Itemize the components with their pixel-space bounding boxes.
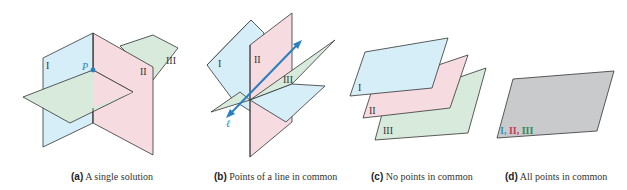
label-line-l: ℓ <box>226 118 230 129</box>
label-point-P: P <box>81 61 88 72</box>
caption-tag-a: (a) <box>71 171 83 182</box>
label-plane-I-c: I <box>358 82 361 93</box>
label-plane-III-a: III <box>166 55 176 66</box>
figure-b-diagram <box>207 13 335 157</box>
label-plane-I-a: I <box>46 60 49 71</box>
caption-tag-d: (d) <box>505 171 518 182</box>
label-plane-II-c: II <box>369 105 376 116</box>
label-plane-III-b: III <box>283 74 293 85</box>
caption-tag-b: (b) <box>214 171 227 182</box>
caption-text-b: Points of a line in common <box>229 171 337 182</box>
caption-text-d: All points in common <box>520 171 608 182</box>
caption-c: (c) No points in common <box>371 171 473 182</box>
caption-d: (d) All points in common <box>505 171 607 182</box>
label-plane-I-b: I <box>218 58 221 69</box>
label-plane-II-b: II <box>254 54 261 65</box>
figure-a-diagram <box>23 33 178 155</box>
label-plane-III-d: III <box>522 125 534 136</box>
label-plane-I-d: I, <box>500 125 507 136</box>
label-combined: I, II, III <box>500 125 533 136</box>
label-plane-II-d: II, <box>509 125 520 136</box>
figure-canvas: I II III P I II III ℓ I II III I, II, II… <box>0 0 627 190</box>
caption-b: (b) Points of a line in common <box>214 171 337 182</box>
label-plane-II-a: II <box>140 66 147 77</box>
caption-text-c: No points in common <box>386 171 473 182</box>
caption-tag-c: (c) <box>371 171 383 182</box>
caption-text-a: A single solution <box>85 171 153 182</box>
label-plane-III-c: III <box>383 125 393 136</box>
point-P <box>91 68 96 73</box>
figure-c-diagram <box>350 38 486 140</box>
caption-a: (a) A single solution <box>71 171 153 182</box>
